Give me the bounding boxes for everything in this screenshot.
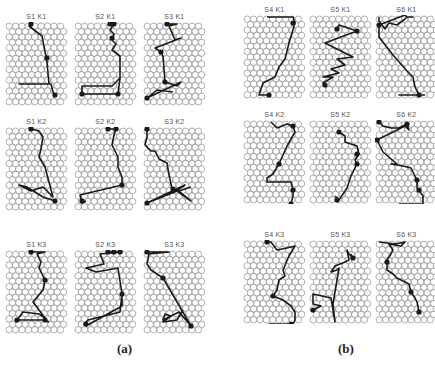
panel-s3k2: S3 K2 (143, 127, 206, 211)
trajectory-node (416, 309, 421, 314)
panel-label: S1 K2 (6, 118, 66, 125)
hex-grid (5, 127, 68, 211)
hex-grid (375, 120, 435, 204)
hex-grid (5, 250, 68, 334)
panel-s6k2: S6 K2 (375, 120, 435, 204)
panel-s5k1: S5 K1 (309, 15, 372, 99)
trajectory-node (416, 187, 421, 192)
trajectory-node (42, 317, 47, 322)
trajectory-node (290, 187, 295, 192)
trajectory-node (354, 161, 359, 166)
panel-label: S1 K1 (6, 13, 66, 20)
panel-label: S5 K3 (310, 231, 370, 238)
caption-a: (a) (117, 341, 132, 357)
hex-grid (375, 15, 435, 99)
trajectory-node (119, 291, 124, 296)
panel-s4k3: S4 K3 (243, 240, 306, 324)
hex-grid (74, 250, 137, 334)
trajectory-node (160, 275, 165, 280)
trajectory-node (416, 92, 421, 97)
trajectory-node (79, 198, 84, 203)
panel-s5k2: S5 K2 (309, 120, 372, 204)
trajectory-node (336, 129, 341, 134)
panel-label: S3 K2 (144, 118, 204, 125)
trajectory-node (158, 49, 163, 54)
panel-s1k1: S1 K1 (5, 22, 68, 106)
trajectory-node (42, 277, 47, 282)
trajectory-node (334, 197, 339, 202)
trajectory-node (414, 177, 419, 182)
trajectory-node (44, 55, 49, 60)
trajectory-node (119, 182, 124, 187)
hex-grid (243, 15, 306, 99)
panel-s2k2: S2 K2 (74, 127, 137, 211)
trajectory-node (162, 79, 167, 84)
panel-label: S5 K2 (310, 111, 370, 118)
panel-s5k3: S5 K3 (309, 240, 372, 324)
panel-label: S6 K1 (376, 6, 435, 13)
panel-s3k3: S3 K3 (143, 250, 206, 334)
panel-label: S4 K3 (244, 231, 304, 238)
trajectory-node (266, 92, 271, 97)
trajectory-node (404, 121, 409, 126)
trajectory-node (144, 95, 149, 100)
panel-s1k2: S1 K2 (5, 127, 68, 211)
hex-grid (309, 120, 372, 204)
panel-s4k1: S4 K1 (243, 15, 306, 99)
trajectory-node (188, 323, 193, 328)
panel-label: S2 K3 (75, 241, 135, 248)
panel-label: S3 K3 (144, 241, 204, 248)
panel-label: S2 K2 (75, 118, 135, 125)
hex-grid (243, 240, 306, 324)
trajectory-node (270, 293, 275, 298)
trajectory-node (276, 161, 281, 166)
hex-grid (375, 240, 435, 324)
panel-s2k1: S2 K1 (74, 22, 137, 106)
panel-label: S4 K2 (244, 111, 304, 118)
trajectory-node (83, 321, 88, 326)
panel-label: S6 K3 (376, 231, 435, 238)
panel-s2k3: S2 K3 (74, 250, 137, 334)
trajectory-node (310, 307, 315, 312)
trajectory-node (109, 35, 114, 40)
trajectory-node (14, 317, 19, 322)
trajectory-node (144, 200, 149, 205)
caption-b: (b) (338, 341, 354, 357)
hex-grid (243, 120, 306, 204)
panel-label: S5 K1 (310, 6, 370, 13)
panel-label: S3 K1 (144, 13, 204, 20)
panel-label: S2 K1 (75, 13, 135, 20)
hex-grid (74, 22, 137, 106)
panel-s4k2: S4 K2 (243, 120, 306, 204)
panel-s3k1: S3 K1 (143, 22, 206, 106)
trajectory-node (384, 259, 389, 264)
trajectory-node (376, 22, 381, 27)
panel-s1k3: S1 K3 (5, 250, 68, 334)
trajectory-node (350, 255, 355, 260)
hex-grid (309, 15, 372, 99)
trajectory-node (354, 151, 359, 156)
trajectory-node (52, 92, 57, 97)
trajectory-node (290, 20, 295, 25)
trajectory-node (79, 91, 84, 96)
hex-grid (74, 127, 137, 211)
hex-grid (143, 250, 206, 334)
hex-grid (5, 22, 68, 106)
panel-s6k3: S6 K3 (375, 240, 435, 324)
trajectory-node (334, 26, 339, 31)
trajectory-node (115, 91, 120, 96)
trajectory-node (170, 186, 175, 191)
panel-label: S6 K2 (376, 111, 435, 118)
trajectory-node (354, 28, 359, 33)
hex-grid (309, 240, 372, 324)
trajectory-node (322, 82, 327, 87)
hex-grid (143, 127, 206, 211)
hex-grid (143, 22, 206, 106)
panel-label: S4 K1 (244, 6, 304, 13)
trajectory-node (52, 198, 57, 203)
panel-label: S1 K3 (6, 241, 66, 248)
trajectory-node (290, 123, 295, 128)
trajectory-node (408, 289, 413, 294)
panel-s6k1: S6 K1 (375, 15, 435, 99)
